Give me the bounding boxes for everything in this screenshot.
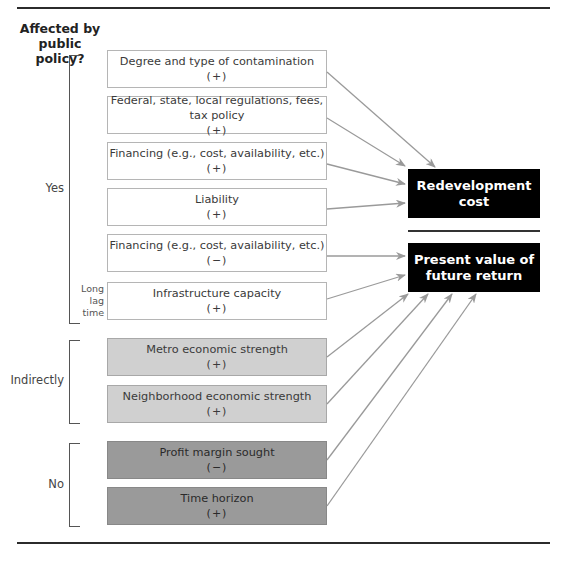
bottom-rule [17, 542, 550, 544]
arrow-contamination [327, 72, 435, 167]
arrows-layer [0, 0, 567, 565]
arrow-liability [327, 203, 405, 209]
arrow-infrastructure [327, 275, 405, 299]
arrow-metro-economy [327, 294, 408, 357]
arrow-time-horizon [327, 294, 476, 506]
arrow-neighborhood-economy [327, 294, 428, 404]
arrow-profit-margin [327, 294, 452, 460]
arrow-regulations [327, 118, 405, 166]
arrow-financing-positive [327, 164, 405, 184]
